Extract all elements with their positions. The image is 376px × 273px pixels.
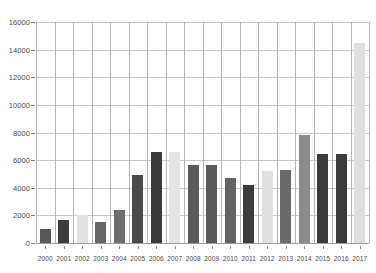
x-tick-label-2017: 2017 [351,255,370,262]
x-tick-mark-2001 [64,246,65,249]
x-tick-mark-2013 [286,246,287,249]
bar-2017[interactable] [354,43,365,243]
x-tick-label-2005: 2005 [129,255,148,262]
x-tick-label-2009: 2009 [203,255,222,262]
y-tick-mark-12000 [31,77,35,78]
x-tick-label-2008: 2008 [184,255,203,262]
x-tick-mark-2004 [119,246,120,249]
bar-2005[interactable] [132,175,143,243]
bar-2010[interactable] [225,178,236,243]
y-tick-label-14000: 14000 [9,45,30,54]
vertical-gridline-17 [351,22,352,243]
y-tick-mark-2000 [31,215,35,216]
y-tick-mark-16000 [31,22,35,23]
y-tick-mark-8000 [31,133,35,134]
x-tick-mark-2003 [101,246,102,249]
vertical-gridline-15 [314,22,315,243]
bar-2013[interactable] [280,170,291,243]
x-tick-mark-2007 [175,246,176,249]
vertical-gridline-4 [110,22,111,243]
x-tick-label-2012: 2012 [258,255,277,262]
vertical-gridline-5 [129,22,130,243]
vertical-gridline-16 [332,22,333,243]
y-axis-tick-labels: 0200040006000800010000120001400016000 [0,22,30,243]
y-tick-mark-10000 [31,105,35,106]
y-tick-mark-4000 [31,188,35,189]
x-tick-label-2003: 2003 [92,255,111,262]
y-tick-label-8000: 8000 [13,128,30,137]
vertical-gridline-11 [240,22,241,243]
bar-2001[interactable] [58,220,69,243]
vertical-gridline-10 [221,22,222,243]
x-tick-mark-2012 [267,246,268,249]
x-tick-mark-2005 [138,246,139,249]
y-tick-mark-0 [31,243,35,244]
vertical-gridline-1 [55,22,56,243]
x-tick-mark-2014 [304,246,305,249]
x-tick-label-2004: 2004 [110,255,129,262]
y-tick-label-10000: 10000 [9,100,30,109]
x-tick-mark-2011 [249,246,250,249]
bar-2006[interactable] [151,152,162,243]
x-tick-mark-2015 [323,246,324,249]
vertical-gridline-3 [92,22,93,243]
x-axis-tick-labels: 2000200120022003200420052006200720082009… [36,246,369,262]
x-tick-label-2006: 2006 [147,255,166,262]
x-tick-label-2000: 2000 [36,255,55,262]
vertical-gridline-6 [147,22,148,243]
bar-2007[interactable] [169,152,180,243]
bar-2016[interactable] [336,154,347,243]
x-tick-label-2013: 2013 [277,255,296,262]
bar-2008[interactable] [188,165,199,243]
x-tick-mark-2016 [341,246,342,249]
gridline-0 [36,243,369,244]
bar-2002[interactable] [77,215,88,243]
x-tick-mark-2009 [212,246,213,249]
vertical-gridline-18 [369,22,370,243]
x-tick-label-2001: 2001 [55,255,74,262]
vertical-gridline-12 [258,22,259,243]
x-tick-label-2011: 2011 [240,255,259,262]
vertical-gridline-8 [184,22,185,243]
plot-area [36,22,369,243]
y-tick-label-2000: 2000 [13,211,30,220]
bar-2009[interactable] [206,165,217,243]
y-tick-label-0: 0 [26,239,30,248]
y-tick-label-12000: 12000 [9,73,30,82]
vertical-gridline-9 [203,22,204,243]
bar-2003[interactable] [95,222,106,243]
x-tick-mark-2006 [156,246,157,249]
bar-2000[interactable] [40,229,51,243]
vertical-gridline-7 [166,22,167,243]
x-tick-mark-2017 [360,246,361,249]
y-tick-mark-14000 [31,50,35,51]
x-tick-label-2007: 2007 [166,255,185,262]
x-tick-mark-2000 [45,246,46,249]
y-tick-mark-6000 [31,160,35,161]
x-tick-mark-2008 [193,246,194,249]
x-tick-label-2010: 2010 [221,255,240,262]
bar-2012[interactable] [262,171,273,243]
vertical-gridline-0 [36,22,37,243]
bar-2015[interactable] [317,154,328,243]
vertical-gridline-2 [73,22,74,243]
vertical-gridline-14 [295,22,296,243]
bar-2011[interactable] [243,185,254,243]
bar-2004[interactable] [114,210,125,243]
x-tick-mark-2010 [230,246,231,249]
y-tick-label-16000: 16000 [9,18,30,27]
y-tick-label-6000: 6000 [13,156,30,165]
x-tick-label-2015: 2015 [314,255,333,262]
bar-chart: 0200040006000800010000120001400016000 20… [0,0,376,273]
bar-2014[interactable] [299,135,310,243]
x-tick-label-2016: 2016 [332,255,351,262]
vertical-gridline-13 [277,22,278,243]
x-tick-mark-2002 [82,246,83,249]
y-tick-label-4000: 4000 [13,183,30,192]
x-tick-label-2002: 2002 [73,255,92,262]
x-tick-label-2014: 2014 [295,255,314,262]
